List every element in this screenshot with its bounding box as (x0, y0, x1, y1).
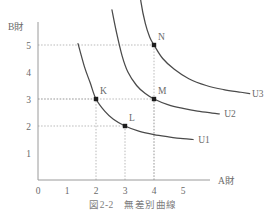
data-point-l (123, 124, 127, 128)
data-point-label-n: N (158, 32, 165, 42)
y-tick-label: 1 (26, 149, 31, 159)
y-tick-label: 2 (26, 122, 31, 132)
y-axis-title: B財 (8, 21, 24, 32)
data-point-label-k: K (100, 86, 107, 96)
data-point-label-m: M (158, 86, 167, 96)
y-tick-label: 5 (26, 41, 31, 51)
data-point-m (152, 97, 156, 101)
indifference-curve-u1 (78, 44, 193, 140)
guide-lines (38, 45, 154, 180)
curve-label-u2: U2 (224, 109, 236, 119)
y-tick-label: 4 (26, 68, 31, 78)
x-tick-label: 2 (94, 186, 99, 196)
data-point-label-l: L (129, 113, 135, 123)
curve-label-u1: U1 (198, 135, 210, 145)
x-tick-label: 5 (181, 186, 186, 196)
curve-label-u3: U3 (252, 89, 264, 99)
figure-caption: 図2-2 無差別曲線 (0, 197, 266, 210)
chart-canvas: U1U2U3KLMN01234512345B財A財 (0, 0, 266, 210)
x-axis-title: A財 (218, 175, 235, 186)
x-tick-label: 1 (65, 186, 70, 196)
axes (38, 22, 210, 180)
indifference-curve-figure: U1U2U3KLMN01234512345B財A財 図2-2 無差別曲線 (0, 0, 266, 210)
x-tick-label: 0 (36, 186, 41, 196)
y-tick-label: 3 (26, 95, 31, 105)
x-tick-label: 4 (152, 186, 157, 196)
x-tick-label: 3 (123, 186, 128, 196)
data-point-n (152, 43, 156, 47)
data-point-k (94, 97, 98, 101)
chart-labels: U1U2U3KLMN01234512345B財A財 (8, 21, 264, 196)
